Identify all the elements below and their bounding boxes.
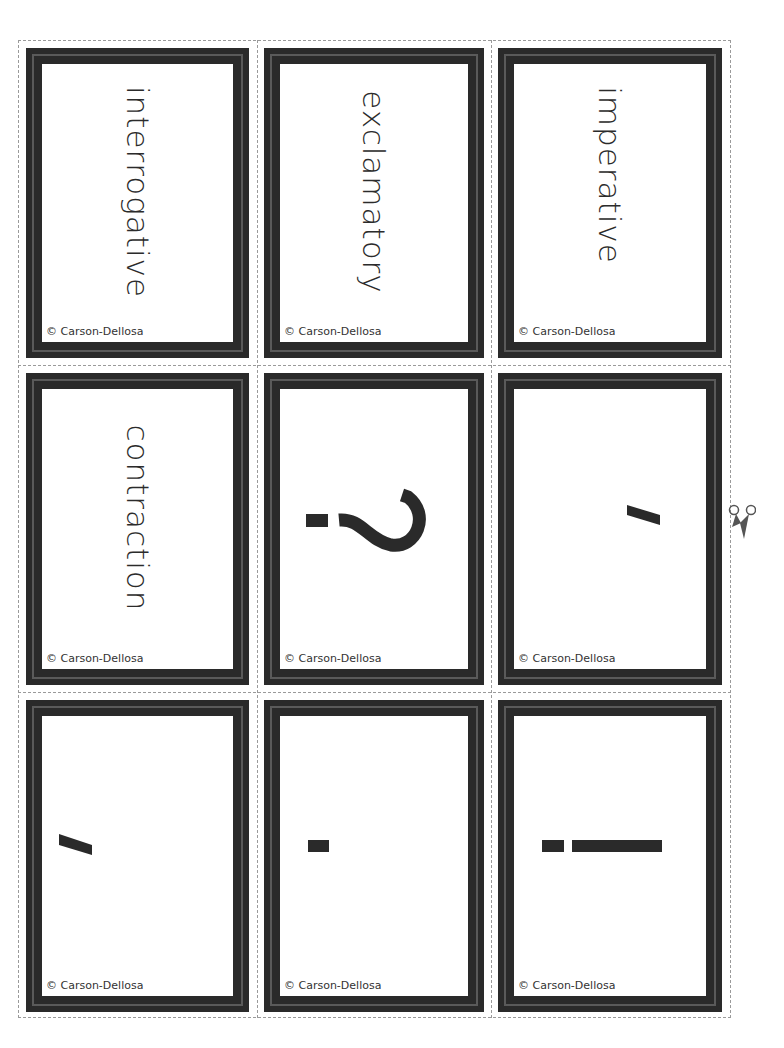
card-question-mark: © Carson-Dellosa (264, 373, 484, 685)
copyright-label: © Carson-Dellosa (284, 979, 381, 992)
card-apostrophe: © Carson-Dellosa (498, 373, 722, 685)
card-word: interrogative (120, 86, 156, 298)
card-interrogative: interrogative © Carson-Dellosa (26, 48, 249, 358)
card-face: exclamatory © Carson-Dellosa (280, 64, 468, 342)
card-word: contraction (120, 424, 156, 611)
card-exclamation-point: © Carson-Dellosa (498, 700, 722, 1012)
card-face: contraction © Carson-Dellosa (42, 389, 233, 669)
card-imperative: imperative © Carson-Dellosa (498, 48, 722, 358)
card-face: © Carson-Dellosa (514, 389, 706, 669)
scissors-icon (726, 503, 756, 543)
copyright-label: © Carson-Dellosa (284, 325, 381, 338)
card-face: © Carson-Dellosa (42, 716, 233, 996)
card-period: © Carson-Dellosa (264, 700, 484, 1012)
apostrophe-symbol (624, 499, 664, 529)
card-word: exclamatory (356, 90, 392, 293)
copyright-label: © Carson-Dellosa (46, 979, 143, 992)
copyright-label: © Carson-Dellosa (46, 652, 143, 665)
card-face: interrogative © Carson-Dellosa (42, 64, 233, 342)
card-face: © Carson-Dellosa (280, 389, 468, 669)
card-face: © Carson-Dellosa (280, 716, 468, 996)
copyright-label: © Carson-Dellosa (46, 325, 143, 338)
period-symbol (308, 840, 329, 852)
comma-symbol (56, 829, 96, 859)
card-exclamatory: exclamatory © Carson-Dellosa (264, 48, 484, 358)
copyright-label: © Carson-Dellosa (518, 979, 615, 992)
copyright-label: © Carson-Dellosa (518, 325, 615, 338)
exclamation-dot (542, 840, 564, 852)
card-word: imperative (592, 86, 628, 264)
question-mark-symbol (306, 485, 426, 565)
cut-line-horizontal-2 (18, 692, 731, 693)
cut-line-horizontal-1 (18, 365, 731, 366)
card-face: imperative © Carson-Dellosa (514, 64, 706, 342)
cut-line-vertical-2 (491, 40, 492, 1018)
card-contraction: contraction © Carson-Dellosa (26, 373, 249, 685)
card-face: © Carson-Dellosa (514, 716, 706, 996)
exclamation-bar (572, 840, 662, 852)
copyright-label: © Carson-Dellosa (284, 652, 381, 665)
copyright-label: © Carson-Dellosa (518, 652, 615, 665)
cut-line-vertical-1 (257, 40, 258, 1018)
card-comma: © Carson-Dellosa (26, 700, 249, 1012)
